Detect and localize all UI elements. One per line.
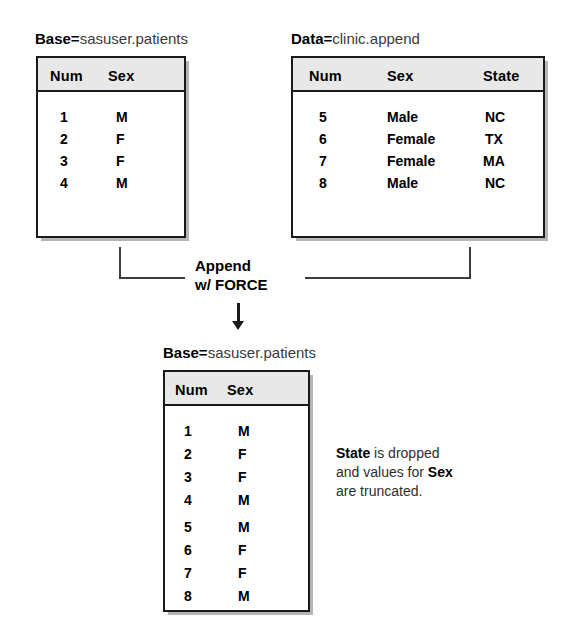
table-row: NC: [485, 110, 505, 124]
annotation-text-1: is dropped: [370, 445, 439, 461]
table-row: 1: [60, 110, 68, 124]
table-row: M: [238, 424, 250, 438]
base-col-num: Num: [50, 69, 83, 83]
arrow-down-icon: [232, 321, 244, 330]
result-col-sex: Sex: [227, 383, 253, 397]
data-col-state: State: [483, 69, 519, 83]
table-row: 3: [184, 470, 192, 484]
table-row: M: [238, 493, 250, 507]
table-row: 8: [319, 176, 327, 190]
table-row: Male: [387, 176, 418, 190]
data-title-equals: =: [324, 30, 333, 47]
table-row: F: [238, 566, 247, 580]
base-table-header-row: Num Sex: [38, 58, 184, 92]
annotation-line-2: and values for Sex: [336, 463, 496, 482]
table-row: Female: [387, 154, 435, 168]
table-row: F: [116, 154, 125, 168]
table-row: 5: [184, 520, 192, 534]
base-table: Num Sex 1 M 2 F 3 F 4 M: [36, 56, 186, 238]
table-row: 6: [184, 543, 192, 557]
result-title-value: sasuser.patients: [208, 344, 316, 361]
table-row: NC: [485, 176, 505, 190]
table-row: F: [238, 447, 247, 461]
table-row: 4: [184, 493, 192, 507]
result-table-title: Base=sasuser.patients: [163, 344, 316, 361]
operation-label: Append w/ FORCE: [195, 256, 268, 294]
base-title-value: sasuser.patients: [80, 30, 188, 47]
table-row: 7: [184, 566, 192, 580]
annotation-line-1: State is dropped: [336, 444, 496, 463]
annotation-note: State is dropped and values for Sex are …: [336, 444, 496, 501]
operation-label-line1: Append: [195, 256, 268, 275]
connector-right-vertical: [469, 247, 471, 279]
result-table-body: 1 M 2 F 3 F 4 M 5 M 6 F 7 F 8 M: [165, 406, 308, 610]
connector-left-horizontal: [119, 277, 185, 279]
table-row: 7: [319, 154, 327, 168]
data-title-value: clinic.append: [332, 30, 420, 47]
data-table-title: Data=clinic.append: [291, 30, 420, 47]
data-table-header-row: Num Sex State: [293, 58, 543, 92]
annotation-text-3: are truncated.: [336, 483, 422, 499]
table-row: Female: [387, 132, 435, 146]
result-col-num: Num: [175, 383, 208, 397]
annotation-bold-state: State: [336, 445, 370, 461]
annotation-text-2: and values for: [336, 464, 428, 480]
table-row: M: [116, 176, 128, 190]
connector-right-horizontal: [305, 277, 471, 279]
data-col-num: Num: [309, 69, 342, 83]
table-row: 8: [184, 589, 192, 603]
table-row: 3: [60, 154, 68, 168]
table-row: TX: [485, 132, 503, 146]
base-table-title: Base=sasuser.patients: [35, 30, 188, 47]
operation-label-line2: w/ FORCE: [195, 275, 268, 294]
table-row: F: [238, 543, 247, 557]
data-table-body: 5 Male NC 6 Female TX 7 Female MA 8 Male…: [293, 92, 543, 236]
table-row: 2: [184, 447, 192, 461]
result-title-equals: =: [199, 344, 208, 361]
arrow-down-shaft: [237, 303, 240, 323]
table-row: MA: [483, 154, 505, 168]
table-row: M: [238, 520, 250, 534]
base-title-equals: =: [71, 30, 80, 47]
table-row: 6: [319, 132, 327, 146]
base-table-body: 1 M 2 F 3 F 4 M: [38, 92, 184, 236]
table-row: F: [238, 470, 247, 484]
table-row: F: [116, 132, 125, 146]
result-table-header-row: Num Sex: [165, 372, 308, 406]
result-title-label: Base: [163, 344, 199, 361]
base-col-sex: Sex: [108, 69, 134, 83]
table-row: 4: [60, 176, 68, 190]
table-row: M: [116, 110, 128, 124]
connector-left-vertical: [119, 247, 121, 279]
data-title-label: Data: [291, 30, 324, 47]
data-col-sex: Sex: [387, 69, 413, 83]
table-row: 1: [184, 424, 192, 438]
diagram-canvas: Base=sasuser.patients Num Sex 1 M 2 F 3 …: [0, 0, 576, 641]
data-table: Num Sex State 5 Male NC 6 Female TX 7 Fe…: [291, 56, 545, 238]
table-row: Male: [387, 110, 418, 124]
table-row: 5: [319, 110, 327, 124]
base-title-label: Base: [35, 30, 71, 47]
result-table: Num Sex 1 M 2 F 3 F 4 M 5 M 6 F 7 F 8 M: [163, 370, 310, 612]
annotation-bold-sex: Sex: [428, 464, 453, 480]
table-row: M: [238, 589, 250, 603]
table-row: 2: [60, 132, 68, 146]
annotation-line-3: are truncated.: [336, 482, 496, 501]
